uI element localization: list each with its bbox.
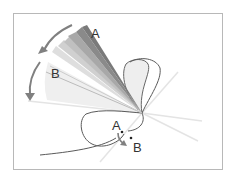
rotation-diagram: A B A B — [0, 0, 233, 182]
arrowhead-2 — [25, 93, 35, 101]
label-top-b: B — [51, 66, 60, 81]
point-b — [130, 137, 133, 140]
label-bottom-a: A — [112, 118, 121, 133]
label-bottom-b: B — [133, 140, 142, 155]
point-a — [121, 131, 124, 134]
label-top-a: A — [91, 26, 100, 41]
